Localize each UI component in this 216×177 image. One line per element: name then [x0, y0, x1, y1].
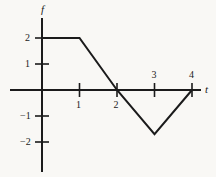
x-tick-label-4: 4 — [189, 70, 194, 80]
plot-canvas — [0, 0, 216, 177]
x-axis-label: t — [205, 84, 208, 95]
y-tick-label-minus-2: −2 — [20, 137, 31, 147]
x-tick-label-2: 2 — [114, 100, 119, 110]
function-plot-figure: f t 1 2 3 4 2 1 −1 −2 — [0, 0, 216, 177]
y-tick-label-1: 1 — [25, 59, 30, 69]
y-tick-label-2: 2 — [25, 33, 30, 43]
x-tick-label-1: 1 — [76, 100, 81, 110]
x-tick-label-3: 3 — [152, 70, 157, 80]
y-tick-label-minus-1: −1 — [20, 111, 31, 121]
y-axis-label: f — [41, 4, 44, 15]
